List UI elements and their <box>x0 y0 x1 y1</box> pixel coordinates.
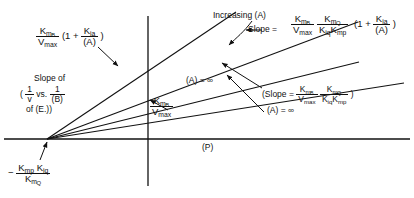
label-increasing-a: Increasing (A) <box>213 11 266 20</box>
label-top-left-intercept-expression: KmB Vmax (1 + Kia (A) ) <box>36 26 104 47</box>
fraction-one-over-b: 1 (B) <box>50 85 65 104</box>
paren-close: ) <box>100 31 103 41</box>
label-bottom-left-x-intercept: − Kmp Kiq KmQ <box>8 163 50 184</box>
label-bottom-right-slope-expression: (Slope = KmB Vmax KmQ KiqKmp ) <box>262 85 354 104</box>
kmq-sub-q: Q <box>37 180 42 186</box>
paren-close: ) <box>393 19 396 29</box>
kia-sub-ia: ia <box>382 18 387 25</box>
minus-sign: − <box>8 168 14 178</box>
kmq-sub-q: Q <box>336 20 341 26</box>
conc-a: (A) <box>81 37 98 47</box>
enzyme-kinetics-figure: KmB Vmax (1 + Kia (A) ) Slope of ( 1 v v… <box>0 0 414 198</box>
vmax-sub-max: max <box>158 111 171 118</box>
paren-open: (1 + <box>354 19 371 29</box>
kmp-sub-mp: mp <box>25 167 35 174</box>
fraction-kmb-over-vmax: KmB Vmax <box>291 14 314 35</box>
fraction-kmb-over-vmax: KmB Vmax <box>36 26 59 47</box>
label-top-right-slope-expression: KmB Vmax KmQ KiqKmp (1 + Kia (A) ) <box>291 14 396 35</box>
paren-open: (1 + <box>62 31 79 41</box>
label-a-equals-infinity-middle: (A) = ∞ <box>186 76 213 85</box>
v-denominator: v <box>25 95 34 104</box>
kmb-sub-b: B <box>306 20 310 26</box>
kmp-sub-mp: mp <box>338 98 347 105</box>
fraction-kmq-over-kiqkmp: KmQ KiqKmp <box>317 14 349 35</box>
kiq-sub-iq: iq <box>328 98 333 105</box>
kmb-sub-b: B <box>310 90 314 96</box>
kmp-k: K <box>18 162 24 173</box>
vs-text: vs. <box>36 90 47 99</box>
kmq-sub-q: Q <box>337 90 341 96</box>
leader-arrow-top-left-intercept <box>98 47 118 66</box>
label-slope-of-expression: ( 1 v vs. 1 (B) of (E.)) <box>20 85 65 114</box>
kia-sub-ia: ia <box>90 30 95 37</box>
fraction-one-over-v: 1 v <box>25 85 34 104</box>
paren-open: ( <box>20 90 23 99</box>
label-slope-of: Slope of <box>34 74 65 83</box>
kiq-k: K <box>322 94 328 104</box>
fraction-kmb-over-vmax: KmB Vmax <box>296 85 317 104</box>
paren-close: ) <box>351 90 354 99</box>
kmb-sub-b: B <box>51 32 55 38</box>
kmb-sub-b: B <box>165 102 169 108</box>
label-a-equals-infinity-bottom-right: (A) = ∞ <box>267 106 294 115</box>
fraction-kmq-over-kiqkmp: KmQ KiqKmp <box>320 85 349 104</box>
fraction-kia-over-a: Kia (A) <box>373 14 390 35</box>
slope-prefix: (Slope = <box>262 90 294 99</box>
leader-arrow-bottom-left-intercept <box>40 142 47 160</box>
vmax-sub-max: max <box>299 29 312 36</box>
fraction-kmb-over-vmax: KmB Vmax <box>150 96 173 117</box>
label-y-intercept-kmb-over-vmax: KmB Vmax <box>150 96 173 117</box>
fraction-kmpkiq-over-kmq: Kmp Kiq KmQ <box>16 163 50 184</box>
label-slope-of-suffix: of (E.)) <box>26 105 65 114</box>
fraction-kia-over-a: Kia (A) <box>81 26 98 47</box>
kmp-sub-mp: mp <box>337 29 347 36</box>
kiq-sub-iq: iq <box>43 167 48 174</box>
conc-a: (A) <box>373 25 390 35</box>
vmax-sub-max: max <box>44 41 57 48</box>
kmq-k: K <box>324 13 330 24</box>
kiq-sub-iq: iq <box>325 29 330 36</box>
label-x-axis-p: (P) <box>202 143 213 152</box>
b-denominator: (B) <box>50 95 65 104</box>
vmax-sub-max: max <box>304 98 316 105</box>
label-slope-equals: Slope = <box>248 25 277 34</box>
